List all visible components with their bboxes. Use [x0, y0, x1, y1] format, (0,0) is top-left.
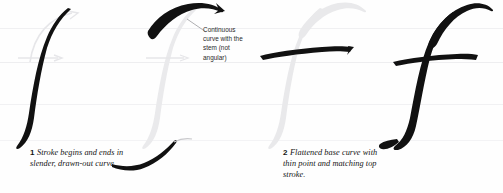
annotation-callout: Continuous curve with the stem (not angu… [203, 25, 265, 62]
step-1-number: 1 [30, 148, 35, 157]
step-3-artwork [252, 0, 378, 150]
completed-top-arch [429, 3, 494, 48]
completed-f-artwork [377, 0, 503, 150]
calligraphy-stroke-diagram: 1Stroke begins and ends in slender, draw… [0, 0, 503, 193]
completed-stem [394, 12, 455, 150]
annotation-line-2: curve with the [203, 34, 265, 43]
annotation-line-3: stem (not [203, 43, 265, 52]
ghost-letter-f [268, 2, 366, 149]
flattened-base-curve [112, 140, 177, 171]
crossbar-stroke [260, 46, 352, 60]
step-3: 3Crossbar extending each side of stem. [252, 0, 378, 193]
step-2-base-curve-artwork [104, 138, 200, 174]
annotation-line-4: angular) [203, 53, 265, 62]
completed-crossbar [393, 54, 478, 66]
annotation-line-1: Continuous [203, 25, 265, 34]
step-1-artwork [0, 0, 126, 150]
step-4-completed: Completed italic lower-case ‘f’. [377, 0, 503, 193]
